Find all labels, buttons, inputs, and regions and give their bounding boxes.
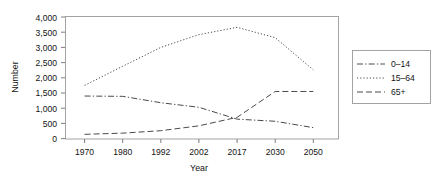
y-tick-label: 500 [43, 119, 58, 129]
x-tick-label: 1992 [151, 147, 170, 157]
y-tick-label: 3,500 [35, 28, 57, 38]
plot-frame [66, 17, 339, 140]
legend-label: 0–14 [391, 59, 410, 69]
y-tick-label: 0 [52, 134, 57, 144]
series-line-15-64 [85, 27, 314, 85]
x-tick-label: 2050 [304, 147, 323, 157]
chart-legend: 0–14 15–64 65+ [353, 51, 431, 104]
y-axis-title: Number [10, 61, 20, 92]
y-tick-label: 1,000 [35, 104, 57, 114]
x-tick-label: 2002 [189, 147, 208, 157]
y-tick-label: 4,000 [35, 13, 57, 23]
x-tick-label: 2017 [228, 147, 247, 157]
x-tick-labels: 1970 1980 1992 2002 2017 2030 2050 [75, 147, 323, 157]
x-tick-label: 2030 [266, 147, 285, 157]
y-tick-marks [61, 17, 65, 139]
series-line-0-14 [85, 96, 314, 128]
series-group [85, 27, 314, 134]
chart-figure: Number 4,000 3,500 3,000 2,500 2,000 1,5… [0, 0, 437, 183]
x-tick-label: 1980 [113, 147, 132, 157]
y-tick-label: 3,000 [35, 43, 57, 53]
x-tick-label: 1970 [75, 147, 94, 157]
legend-label: 65+ [391, 87, 406, 97]
series-line-65plus [85, 91, 314, 134]
chart-svg: Number 4,000 3,500 3,000 2,500 2,000 1,5… [0, 0, 437, 183]
y-tick-label: 1,500 [35, 88, 57, 98]
y-tick-label: 2,000 [35, 73, 57, 83]
y-tick-label: 2,500 [35, 58, 57, 68]
x-axis-title: Year [190, 163, 208, 173]
y-tick-labels: 4,000 3,500 3,000 2,500 2,000 1,500 1,00… [35, 13, 57, 145]
x-tick-marks [85, 139, 314, 143]
legend-label: 15–64 [391, 73, 415, 83]
